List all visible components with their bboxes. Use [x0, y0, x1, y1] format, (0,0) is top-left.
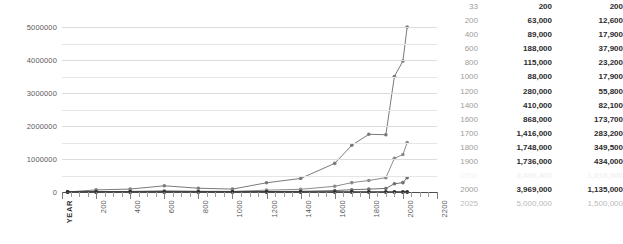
x-tick [326, 192, 327, 197]
x-tick [105, 192, 106, 197]
x-tick [147, 192, 148, 197]
cell-value-b: 1,019,000 [552, 169, 623, 183]
y-axis-labels: 010000002000000300000040000005000000 [0, 27, 57, 192]
cell-value-b: 200 [552, 0, 623, 14]
cell-year: 800 [432, 56, 478, 70]
screenshot-root: 010000002000000300000040000005000000 YEA… [0, 0, 623, 244]
table-row: 600188,00037,900 [432, 42, 623, 56]
y-tick-label: 4000000 [27, 56, 57, 65]
cell-value-b: 23,200 [552, 56, 623, 70]
x-tick [71, 192, 72, 197]
x-tick [428, 192, 429, 197]
x-tick [394, 192, 395, 197]
cell-year: 33 [432, 0, 478, 14]
cell-value-a: 3,969,000 [478, 183, 552, 197]
x-tick [130, 192, 131, 199]
x-tick [198, 192, 199, 199]
x-tick [207, 192, 208, 197]
y-tick-label: 2000000 [27, 122, 57, 131]
cell-value-a: 188,000 [478, 42, 552, 56]
x-tick [190, 192, 191, 197]
line-chart: 010000002000000300000040000005000000 YEA… [0, 0, 440, 244]
x-tick [96, 192, 97, 199]
cell-year: 200 [432, 14, 478, 28]
x-tick [352, 192, 353, 197]
y-tick-label: 3000000 [27, 89, 57, 98]
data-point [393, 182, 397, 186]
data-point [401, 181, 405, 185]
x-tick [369, 192, 370, 199]
cell-value-a: 88,000 [478, 70, 552, 84]
gridline [62, 110, 437, 111]
y-tick-label: 1000000 [27, 155, 57, 164]
x-tick [343, 192, 344, 197]
x-tick [232, 192, 233, 199]
y-tick-label: 5000000 [27, 23, 57, 32]
cell-value-b: 82,100 [552, 99, 623, 113]
x-tick [360, 192, 361, 197]
x-tick [309, 192, 310, 197]
cell-value-a: 63,000 [478, 14, 552, 28]
data-point [350, 143, 354, 147]
cell-year: 1950 [432, 169, 478, 183]
gridline [62, 60, 437, 61]
x-tick [377, 192, 378, 197]
cell-year: 1900 [432, 155, 478, 169]
x-tick [88, 192, 89, 197]
table-row: 20003,969,0001,135,000 [432, 183, 623, 197]
x-tick [181, 192, 182, 197]
x-axis-title: YEAR [65, 200, 74, 223]
x-tick [275, 192, 276, 197]
x-tick-label: 1600 [338, 200, 347, 218]
table-row: 20063,00012,600 [432, 14, 623, 28]
table-row: 20255,000,0001,500,000 [432, 197, 623, 211]
cell-year: 1800 [432, 141, 478, 155]
x-tick [386, 192, 387, 197]
cell-value-b: 17,900 [552, 70, 623, 84]
gridline [62, 126, 437, 127]
gridline [62, 159, 437, 160]
x-tick-label: 1200 [270, 200, 279, 218]
x-tick-label: 1800 [372, 200, 381, 218]
cell-value-b: 434,000 [552, 155, 623, 169]
cell-value-b: 173,700 [552, 113, 623, 127]
series-line-series-b [68, 143, 408, 192]
x-tick [241, 192, 242, 197]
cell-value-a: 200 [478, 0, 552, 14]
x-tick [224, 192, 225, 197]
x-tick [267, 192, 268, 199]
data-point [333, 162, 337, 166]
data-point [162, 184, 166, 188]
data-point [299, 177, 303, 181]
cell-year: 400 [432, 28, 478, 42]
data-point [367, 179, 371, 183]
cell-year: 1400 [432, 99, 478, 113]
table-row: 1400410,00082,100 [432, 99, 623, 113]
cell-value-b: 349,500 [552, 141, 623, 155]
gridline [62, 77, 437, 78]
x-tick-label: 2000 [406, 200, 415, 218]
table-row: 40089,00017,900 [432, 28, 623, 42]
x-tick [411, 192, 412, 197]
data-point [265, 181, 269, 185]
data-point [384, 133, 388, 137]
x-tick [258, 192, 259, 197]
cell-value-b: 283,200 [552, 127, 623, 141]
y-tick-label: 0 [53, 188, 57, 197]
x-tick-label: 200 [99, 200, 108, 213]
cell-value-a: 868,000 [478, 113, 552, 127]
cell-year: 1200 [432, 85, 478, 99]
cell-value-b: 55,800 [552, 85, 623, 99]
table-row: 19001,736,000434,000 [432, 155, 623, 169]
cell-value-a: 89,000 [478, 28, 552, 42]
data-table: 3320020020063,00012,60040089,00017,90060… [432, 0, 623, 211]
x-tick [79, 192, 80, 197]
cell-year: 2000 [432, 183, 478, 197]
cell-value-a: 5,000,000 [478, 197, 552, 211]
x-tick [173, 192, 174, 197]
cell-value-a: 1,736,000 [478, 155, 552, 169]
x-tick-label: 400 [133, 200, 142, 213]
cell-value-b: 1,135,000 [552, 183, 623, 197]
cell-value-b: 37,900 [552, 42, 623, 56]
cell-year: 1700 [432, 127, 478, 141]
